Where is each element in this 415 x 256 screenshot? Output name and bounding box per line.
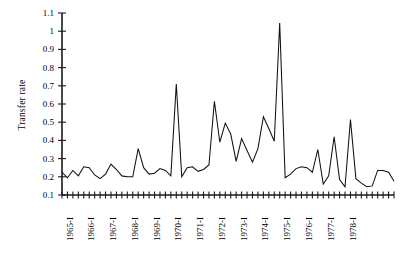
chart-figure: Transfer rate 0.10.20.30.40.50.60.70.80.… — [0, 0, 415, 256]
chart-svg — [0, 0, 415, 256]
plot-area — [0, 0, 415, 256]
transfer-rate-line — [62, 23, 394, 187]
